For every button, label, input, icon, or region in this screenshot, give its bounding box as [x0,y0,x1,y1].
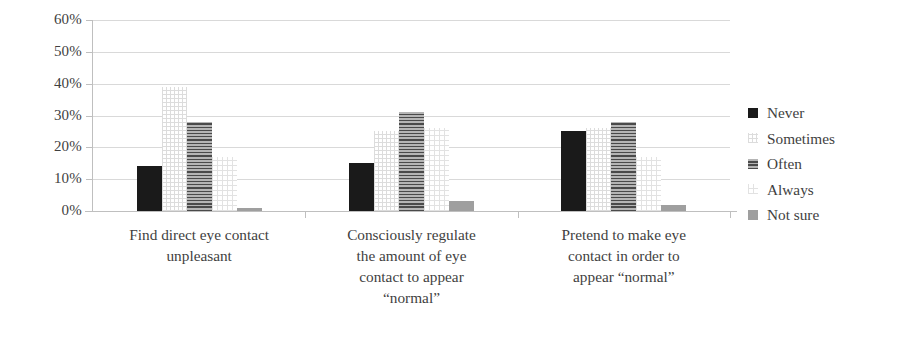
y-axis-tick-mark [86,116,93,117]
plot-area [93,20,730,211]
legend-item-never[interactable]: Never [748,100,898,126]
bar-never [349,163,374,211]
y-axis-tick-label: 50% [54,44,82,59]
bar-chart: 60%50%40%30%20%10%0% Find direct eye con… [0,0,902,347]
y-axis-tick-mark [86,211,93,212]
x-axis-group-tick [518,211,519,218]
legend-swatch-icon [748,159,758,169]
y-axis-tick-mark [86,179,93,180]
legend-swatch-icon [748,184,758,194]
bar-not-sure [237,208,262,211]
bar-never [137,166,162,211]
legend-label: Often [767,156,802,171]
bar-group [518,20,730,211]
bar-group [93,20,305,211]
x-axis-line [85,211,737,212]
bar-often [399,112,424,211]
legend-swatch-icon [748,210,758,220]
legend-label: Not sure [767,207,819,222]
bar-often [611,122,636,211]
y-axis-labels: 60%50%40%30%20%10%0% [0,0,82,347]
bar-always [424,128,449,211]
x-axis-category-label: Find direct eye contact unpleasant [85,224,313,266]
bar-always [636,157,661,211]
bar-always [212,157,237,211]
x-axis-group-tick [305,211,306,218]
legend-swatch-icon [748,108,758,118]
legend-swatch-icon [748,133,758,143]
legend-item-always[interactable]: Always [748,177,898,203]
bar-never [561,131,586,211]
bar-sometimes [586,128,611,211]
y-axis-tick-label: 60% [54,12,82,27]
x-axis-category-label: Pretend to make eye contact in order to … [510,224,738,287]
y-axis-tick-label: 40% [54,76,82,91]
legend-label: Always [767,182,814,197]
legend-item-sometimes[interactable]: Sometimes [748,126,898,152]
legend-label: Never [767,105,804,120]
legend-item-not-sure[interactable]: Not sure [748,202,898,228]
bar-sometimes [374,131,399,211]
y-axis-tick-label: 20% [54,139,82,154]
bar-often [187,122,212,211]
y-axis-tick-mark [86,147,93,148]
y-axis-tick-label: 0% [62,203,82,218]
y-axis-tick-mark [86,20,93,21]
legend-item-often[interactable]: Often [748,151,898,177]
bar-not-sure [661,205,686,211]
chart-legend: NeverSometimesOftenAlwaysNot sure [748,100,898,228]
x-axis-category-label: Consciously regulate the amount of eye c… [297,224,525,308]
legend-label: Sometimes [767,131,835,146]
y-axis-tick-label: 30% [54,108,82,123]
bar-not-sure [449,201,474,211]
y-axis-tick-mark [86,52,93,53]
y-axis-tick-mark [86,84,93,85]
x-axis-group-tick [730,211,731,218]
bar-group [305,20,517,211]
y-axis-tick-label: 10% [54,171,82,186]
bar-sometimes [162,87,187,211]
